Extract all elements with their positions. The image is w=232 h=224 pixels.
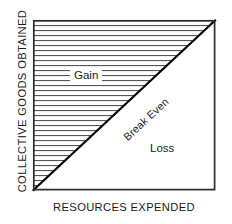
plot-area <box>0 0 232 224</box>
break-even-chart: COLLECTIVE GOODS OBTAINED RESOURCES EXPE… <box>0 0 232 224</box>
gain-label: Gain <box>70 68 102 83</box>
loss-label: Loss <box>150 142 174 154</box>
